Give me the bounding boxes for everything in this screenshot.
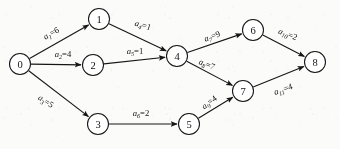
node-2[interactable]: 2 [83,55,104,76]
node-6[interactable]: 6 [243,20,264,41]
edge-label-a11: a11=4 [272,81,294,98]
node-label-0: 0 [17,59,22,70]
node-label-1: 1 [96,14,101,25]
node-5[interactable]: 5 [179,114,200,135]
edge-a11 [253,66,304,86]
diagram-canvas: 012345678 a1=6a2=4a3=5a4=1a5=1a6=2a7=9a8… [0,0,340,149]
edge-label-a8: a8=7 [197,56,217,72]
node-4[interactable]: 4 [167,46,188,67]
edge-label-a5: a5=1 [127,46,144,57]
node-label-5: 5 [186,119,191,130]
node-7[interactable]: 7 [233,81,254,102]
node-label-8: 8 [312,57,317,68]
edge-a3 [29,71,89,117]
edge-label-a4: a4=1 [133,18,152,33]
node-label-2: 2 [90,60,95,71]
node-8[interactable]: 8 [305,52,326,73]
node-label-7: 7 [240,86,245,97]
node-1[interactable]: 1 [89,9,110,30]
edge-a2 [31,64,81,65]
node-3[interactable]: 3 [88,114,109,135]
node-label-6: 6 [250,25,255,36]
edge-label-a1: a1=6 [41,24,61,42]
node-label-4: 4 [174,51,180,62]
edge-a5 [104,57,165,64]
edge-label-a2: a2=4 [55,49,72,60]
edge-label-a3: a3=5 [36,92,56,110]
activity-network-graph: 012345678 a1=6a2=4a3=5a4=1a5=1a6=2a7=9a8… [0,0,340,149]
node-label-3: 3 [95,119,100,130]
edge-label-a6: a6=2 [133,108,150,119]
edges-layer [29,24,305,124]
edge-label-a9: a9=4 [199,93,219,112]
edge-label-a10: a10=2 [277,26,299,43]
node-0[interactable]: 0 [10,54,31,75]
